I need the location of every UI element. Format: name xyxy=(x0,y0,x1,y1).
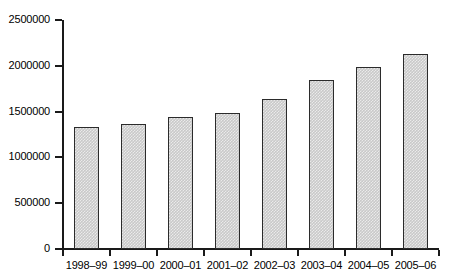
x-axis-tick xyxy=(344,250,346,256)
x-axis-tick xyxy=(62,250,64,256)
x-axis-category-label: 2005–06 xyxy=(392,259,439,271)
bar xyxy=(74,127,99,249)
x-axis-category-label: 2003–04 xyxy=(298,259,345,271)
x-axis-tick xyxy=(109,250,111,256)
x-axis-tick xyxy=(391,250,393,256)
y-axis-tick-label-text: 2000000 xyxy=(0,60,50,71)
y-axis-tick-label: 2500000 xyxy=(0,14,50,25)
x-axis-tick xyxy=(250,250,252,256)
x-axis-category-label: 2002–03 xyxy=(251,259,298,271)
y-axis-tick-label-text: 1500000 xyxy=(0,106,50,117)
y-axis-tick xyxy=(55,202,62,204)
y-axis-tick-label-text: 2500000 xyxy=(0,14,50,25)
y-axis-tick-label: 1500000 xyxy=(0,106,50,117)
y-axis-tick xyxy=(55,248,62,250)
y-axis-tick-label: 500000 xyxy=(0,197,50,208)
x-axis-tick xyxy=(297,250,299,256)
y-axis-tick xyxy=(55,19,62,21)
bar xyxy=(121,124,146,249)
x-axis-tick xyxy=(156,250,158,256)
y-axis-tick xyxy=(55,111,62,113)
bar xyxy=(309,80,334,249)
x-axis-category-label: 1999–00 xyxy=(110,259,157,271)
x-axis-category-label: 2004–05 xyxy=(345,259,392,271)
y-axis-tick-label: 0 xyxy=(0,243,50,254)
x-axis-category-label: 2001–02 xyxy=(204,259,251,271)
x-axis-category-label: 2000–01 xyxy=(157,259,204,271)
x-axis-tick xyxy=(203,250,205,256)
bar xyxy=(403,54,428,249)
y-axis-tick-label: 2000000 xyxy=(0,60,50,71)
y-axis-tick-label: 1000000 xyxy=(0,151,50,162)
bar xyxy=(356,67,381,249)
bar xyxy=(168,117,193,249)
y-axis-tick-label-text: 1000000 xyxy=(0,151,50,162)
x-axis-category-label: 1998–99 xyxy=(63,259,110,271)
y-axis-line xyxy=(62,20,64,250)
bar xyxy=(262,99,287,249)
bar xyxy=(215,113,240,249)
y-axis-tick xyxy=(55,65,62,67)
x-axis-tick xyxy=(438,250,440,256)
y-axis-tick-label-text: 0 xyxy=(0,243,50,254)
y-axis-tick-label-text: 500000 xyxy=(0,197,50,208)
y-axis-tick xyxy=(55,156,62,158)
bar-chart: 25000002000000150000010000005000000 1998… xyxy=(0,0,452,280)
